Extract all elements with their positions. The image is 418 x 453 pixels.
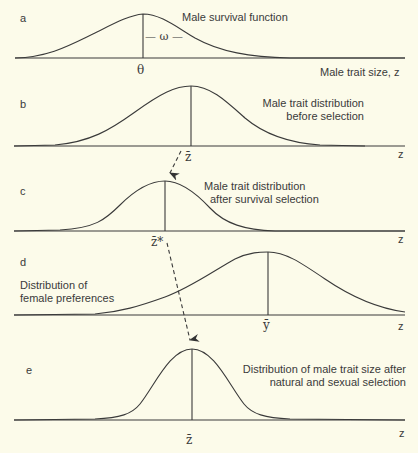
panel-d-title-line2: female preferences: [20, 292, 114, 305]
panel-b-title-line2: before selection: [286, 110, 364, 123]
panel-a-title: Male survival function: [182, 11, 288, 24]
panel-e-title-line1: Distribution of male trait size after: [243, 363, 406, 376]
axis-label-e: z: [399, 427, 405, 440]
axis-label-a: Male trait size, z: [320, 66, 399, 79]
arrow-b-to-c: [170, 151, 181, 173]
zbar-star-label: z̄*: [151, 235, 163, 249]
panel-label-e: e: [26, 364, 32, 376]
zbar-label-b: z̄: [185, 150, 191, 164]
panel-d-title-line1: Distribution of: [20, 279, 87, 292]
panel-label-d: d: [20, 256, 26, 268]
axis-label-d: z: [398, 320, 404, 333]
panel-c-title-line1: Male trait distribution: [204, 180, 306, 193]
panel-label-a: a: [20, 12, 26, 24]
axis-label-b: z: [398, 148, 404, 161]
panel-b-title-line1: Male trait distribution: [263, 97, 365, 110]
arrow-c-to-e: [167, 243, 190, 340]
panel-c-title-line2: after survival selection: [210, 193, 319, 206]
panel-label-b: b: [20, 98, 26, 110]
panel-e-title-line2: natural and sexual selection: [270, 376, 406, 389]
zbar-label-e: z̄: [186, 433, 192, 447]
theta-label: θ: [137, 63, 144, 77]
ybar-label: ȳ: [263, 318, 270, 332]
panel-label-c: c: [20, 185, 26, 197]
omega-width-label: — ω —: [145, 30, 183, 43]
axis-label-c: z: [398, 233, 404, 246]
